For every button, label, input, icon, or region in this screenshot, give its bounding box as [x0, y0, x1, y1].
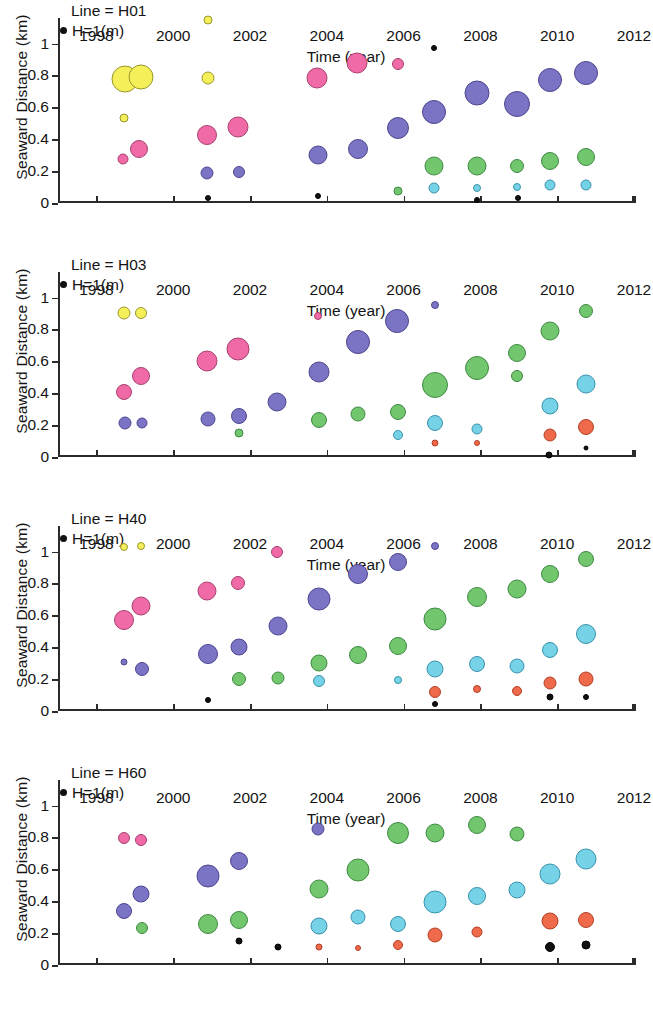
y-axis-tick	[52, 139, 58, 141]
data-point	[468, 816, 486, 834]
y-axis-tick	[52, 171, 58, 173]
data-point	[473, 184, 481, 192]
data-point	[578, 912, 594, 928]
data-point	[576, 624, 596, 644]
data-point	[583, 694, 589, 700]
x-axis-tick	[173, 450, 175, 457]
x-axis-tick-label: 2002	[233, 789, 267, 807]
y-axis-tick-label: 0.4	[27, 638, 49, 656]
x-axis-tick	[557, 450, 559, 457]
data-point	[309, 361, 330, 382]
x-axis-tick-label: 2012	[617, 27, 651, 45]
x-axis-tick-label: 2008	[463, 281, 497, 299]
data-point	[545, 451, 552, 458]
y-axis-tick-label: 0.4	[27, 384, 49, 402]
y-axis-tick	[52, 298, 58, 300]
y-axis-tick	[52, 711, 58, 713]
x-axis-tick-label: 2004	[310, 789, 344, 807]
data-point	[231, 408, 247, 424]
data-point	[232, 672, 246, 686]
x-axis-tick-label: 2002	[233, 281, 267, 299]
x-axis-tick-label: 2010	[540, 789, 574, 807]
y-axis-tick	[52, 869, 58, 871]
data-point	[432, 701, 438, 707]
y-axis-tick	[52, 615, 58, 617]
data-point	[120, 543, 128, 551]
data-point	[431, 45, 437, 51]
data-point	[387, 822, 409, 844]
seaward-distance-figure: Seaward Distance (km)Line = H01H=1(m)00.…	[0, 0, 653, 1018]
data-point	[271, 546, 283, 558]
data-point	[508, 882, 525, 899]
x-axis-tick-label: 2012	[617, 789, 651, 807]
data-point	[200, 411, 215, 426]
data-point	[543, 429, 556, 442]
x-axis-tick-label: 2002	[233, 535, 267, 553]
data-point	[509, 827, 524, 842]
data-point	[425, 156, 444, 175]
x-axis-tick	[96, 958, 98, 965]
data-point	[347, 859, 370, 882]
data-point	[424, 607, 447, 630]
data-point	[424, 891, 447, 914]
data-point	[314, 312, 322, 320]
data-point	[128, 65, 153, 90]
data-point	[313, 675, 325, 687]
x-axis-tick	[557, 196, 559, 203]
data-point	[205, 195, 211, 201]
data-point	[428, 927, 443, 942]
data-point	[504, 91, 530, 117]
x-axis-tick-label: 2000	[156, 281, 190, 299]
data-point	[196, 864, 219, 887]
data-point	[543, 677, 556, 690]
data-point	[431, 542, 439, 550]
y-axis-tick	[52, 837, 58, 839]
x-axis-tick	[480, 704, 482, 711]
data-point	[467, 156, 486, 175]
data-point	[201, 71, 214, 84]
y-axis-line	[58, 18, 60, 203]
data-point	[507, 579, 526, 598]
data-point	[315, 193, 321, 199]
y-axis-tick-label: 1	[40, 35, 49, 53]
x-axis-tick-label: 1998	[79, 535, 113, 553]
data-point	[198, 914, 218, 934]
data-point	[205, 697, 211, 703]
y-axis-tick	[52, 457, 58, 459]
data-point	[316, 944, 323, 951]
y-axis-tick-label: 1	[40, 289, 49, 307]
data-point	[513, 183, 521, 191]
y-axis-line	[58, 780, 60, 965]
data-point	[429, 182, 440, 193]
y-axis-tick-label: 0.2	[27, 416, 49, 434]
y-axis-tick	[52, 679, 58, 681]
x-axis-tick	[480, 450, 482, 457]
data-point	[511, 370, 523, 382]
data-point	[351, 910, 366, 925]
data-point	[541, 152, 559, 170]
x-axis-tick	[480, 958, 482, 965]
data-point	[426, 824, 445, 843]
y-axis-tick-label: 0.6	[27, 352, 49, 370]
y-axis-tick-label: 0.6	[27, 98, 49, 116]
data-point	[137, 542, 145, 550]
data-point	[392, 58, 404, 70]
y-axis-tick	[52, 44, 58, 46]
plot-area: 00.20.40.60.8119982000200220042006200820…	[58, 272, 634, 457]
x-axis-tick-label: 1998	[79, 789, 113, 807]
x-axis-tick	[634, 450, 636, 457]
x-axis-tick-label: 2000	[156, 789, 190, 807]
y-axis-tick-label: 0.8	[27, 320, 49, 338]
data-point	[577, 375, 596, 394]
x-axis-tick-label: 2008	[463, 27, 497, 45]
x-axis-tick	[173, 704, 175, 711]
data-point	[515, 195, 521, 201]
x-axis-tick-label: 1998	[79, 281, 113, 299]
y-axis-tick	[52, 425, 58, 427]
data-point	[311, 412, 327, 428]
y-axis-tick	[52, 203, 58, 205]
y-axis-tick	[52, 552, 58, 554]
x-axis-tick	[404, 704, 406, 711]
data-point	[431, 301, 439, 309]
x-axis-tick-label: 2008	[463, 535, 497, 553]
